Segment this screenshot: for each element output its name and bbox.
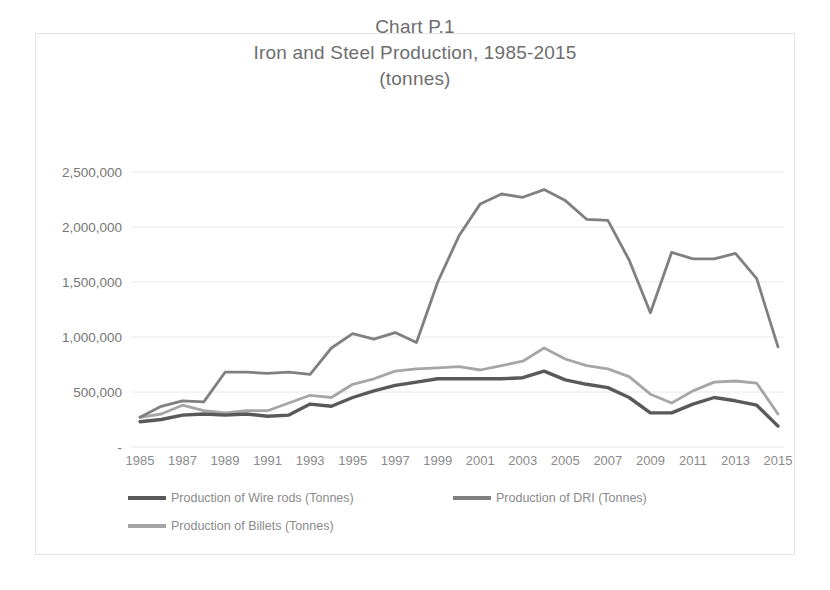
series-line	[140, 190, 778, 418]
x-axis-tick-label: 2013	[721, 453, 750, 468]
legend-swatch-dri	[453, 496, 491, 500]
x-axis-tick-label: 2005	[551, 453, 580, 468]
legend-label-wire-rods: Production of Wire rods (Tonnes)	[171, 491, 354, 505]
y-axis-tick-label: 500,000	[73, 385, 122, 400]
legend-item-billets[interactable]: Production of Billets (Tonnes)	[128, 515, 453, 537]
x-axis-tick-label: 1987	[168, 453, 197, 468]
x-axis-tick-label: 2007	[593, 453, 622, 468]
y-axis-tick-label: 1,500,000	[62, 275, 122, 290]
y-axis-tick-label: 2,500,000	[62, 165, 122, 180]
legend-swatch-wire-rods	[128, 496, 166, 500]
y-axis-tick-labels: 2,500,0002,000,0001,500,0001,000,000500,…	[62, 165, 122, 455]
x-axis-tick-label: 2011	[679, 453, 707, 468]
x-axis-tick-label: 2003	[508, 453, 537, 468]
legend-label-dri: Production of DRI (Tonnes)	[496, 491, 647, 505]
x-axis-tick-label: 1999	[423, 453, 452, 468]
x-axis-tick-label: 2001	[466, 453, 495, 468]
legend-item-wire-rods[interactable]: Production of Wire rods (Tonnes)	[128, 487, 453, 509]
legend-row-1: Production of Wire rods (Tonnes) Product…	[128, 487, 768, 515]
x-axis-tick-labels: 1985198719891991199319951997199920012003…	[126, 453, 793, 468]
y-axis-tick-label: -	[118, 440, 123, 455]
y-axis-tick-label: 2,000,000	[62, 220, 122, 235]
y-axis-tick-label: 1,000,000	[62, 330, 122, 345]
series-lines	[140, 190, 778, 427]
legend-swatch-billets	[128, 524, 166, 528]
x-axis-tick-label: 1995	[338, 453, 367, 468]
legend-label-billets: Production of Billets (Tonnes)	[171, 519, 334, 533]
x-axis-tick-label: 1985	[126, 453, 155, 468]
x-axis-tick-label: 1989	[211, 453, 240, 468]
x-axis-tick-label: 2015	[764, 453, 793, 468]
series-line	[140, 371, 778, 426]
legend-item-dri[interactable]: Production of DRI (Tonnes)	[453, 487, 647, 509]
x-axis-tick-label: 1997	[381, 453, 410, 468]
legend-row-2: Production of Billets (Tonnes)	[128, 515, 768, 543]
x-axis-tick-label: 2009	[636, 453, 665, 468]
chart-legend: Production of Wire rods (Tonnes) Product…	[128, 487, 768, 547]
x-axis-tick-label: 1993	[296, 453, 325, 468]
x-axis-tick-label: 1991	[253, 453, 282, 468]
